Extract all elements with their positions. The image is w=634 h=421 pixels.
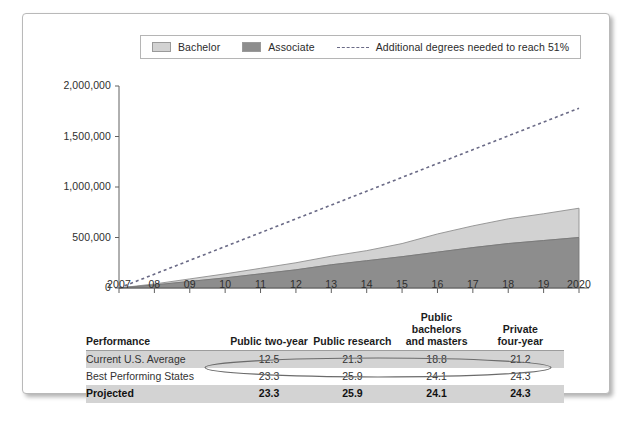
x-axis-tick-label: 09 (170, 278, 210, 290)
table-header-public-research: Public research (312, 309, 396, 351)
table-cell-row-label: Current U.S. Average (86, 351, 230, 369)
header-line: four-year (498, 335, 544, 347)
area-chart: 0500,0001,000,0001,500,0002,000,000 2007… (23, 14, 611, 304)
table-header-row: Performance Public two-year Public resea… (86, 309, 564, 351)
table-cell-row-label: Best Performing States (86, 368, 230, 385)
table-cell-value: 24.1 (396, 385, 480, 402)
table-cell-value: 21.3 (312, 351, 396, 369)
table-cell-value: 18.8 (396, 351, 480, 369)
x-axis-tick-label: 18 (488, 278, 528, 290)
table-header-performance: Performance (86, 309, 230, 351)
table-cell-value: 23.3 (230, 385, 313, 402)
chart-canvas (23, 14, 611, 304)
table-cell-value: 12.5 (230, 351, 313, 369)
table-cell-row-label: Projected (86, 385, 230, 402)
x-axis-tick-label: 12 (276, 278, 316, 290)
x-axis-tick-label: 10 (205, 278, 245, 290)
table-header-public-two-year: Public two-year (230, 309, 313, 351)
header-line: Private (503, 323, 538, 335)
table-body: Current U.S. Average12.521.318.821.2Best… (86, 351, 564, 403)
table-row: Best Performing States23.325.924.124.3 (86, 368, 564, 385)
table-cell-value: 25.9 (312, 385, 396, 402)
x-axis-tick-label: 2007 (99, 278, 139, 290)
x-axis-tick-label: 19 (524, 278, 564, 290)
x-axis-tick-label: 16 (417, 278, 457, 290)
y-axis-tick-label: 1,000,000 (33, 180, 111, 192)
x-axis-tick-label: 11 (241, 278, 281, 290)
y-axis-tick-label: 2,000,000 (33, 79, 111, 91)
table-cell-value: 24.3 (481, 385, 564, 402)
header-line: and masters (406, 335, 468, 347)
figure-card: Bachelor Associate Additional degrees ne… (22, 13, 610, 394)
table-cell-value: 24.1 (396, 368, 480, 385)
x-axis-tick-label: 2020 (559, 278, 599, 290)
table-header-public-bachelors-masters: Public bachelors and masters (396, 309, 480, 351)
table-cell-value: 23.3 (230, 368, 313, 385)
x-axis-tick-label: 17 (453, 278, 493, 290)
header-line: Public bachelors (412, 311, 462, 335)
page-root: Bachelor Associate Additional degrees ne… (0, 0, 634, 421)
table-cell-value: 25.9 (312, 368, 396, 385)
x-axis-tick-label: 14 (347, 278, 387, 290)
header-line: Performance (86, 335, 150, 347)
x-axis-tick-label: 13 (311, 278, 351, 290)
table-cell-value: 21.2 (481, 351, 564, 369)
table-header: Performance Public two-year Public resea… (86, 309, 564, 351)
y-axis-tick-label: 1,500,000 (33, 130, 111, 142)
performance-table: Performance Public two-year Public resea… (86, 309, 564, 403)
header-line: Public research (313, 335, 391, 347)
y-axis-tick-label: 500,000 (33, 231, 111, 243)
table-row: Current U.S. Average12.521.318.821.2 (86, 351, 564, 369)
x-axis-tick-label: 15 (382, 278, 422, 290)
x-axis-tick-label: 08 (134, 278, 174, 290)
table-header-private-four-year: Private four-year (481, 309, 564, 351)
table-cell-value: 24.3 (481, 368, 564, 385)
header-line: Public two-year (230, 335, 308, 347)
table-row: Projected23.325.924.124.3 (86, 385, 564, 402)
